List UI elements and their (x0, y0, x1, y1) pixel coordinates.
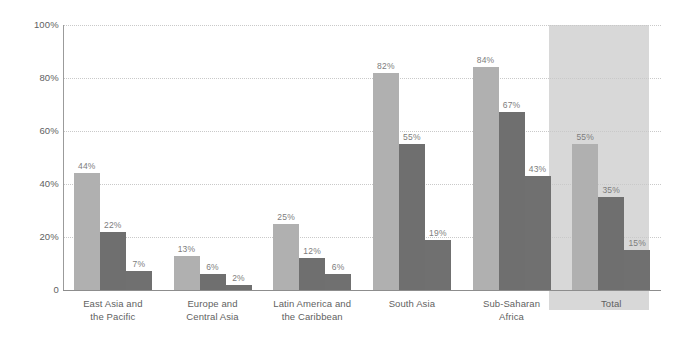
y-axis-tick-labels: 100%80%60%40%20%0 (0, 0, 59, 345)
category-label-line: Latin America and (262, 297, 362, 310)
category-label-line: East Asia and (63, 297, 163, 310)
bar[interactable] (126, 271, 152, 290)
bar[interactable] (399, 144, 425, 290)
bar-group: 55%35%15% (561, 25, 661, 290)
bar[interactable] (525, 176, 551, 290)
bar-slot: 22% (100, 25, 126, 290)
bar-value-label: 19% (425, 228, 451, 238)
bar-value-label: 55% (572, 132, 598, 142)
category-label: East Asia andthe Pacific (63, 297, 163, 323)
y-tick-label: 0 (3, 284, 59, 295)
category-label-line: Africa (462, 310, 562, 323)
bar[interactable] (499, 112, 525, 290)
category-label-line: South Asia (362, 297, 462, 310)
bar-slot: 35% (598, 25, 624, 290)
bar[interactable] (572, 144, 598, 290)
bar[interactable] (373, 73, 399, 290)
bar-slot: 6% (200, 25, 226, 290)
bar-slot: 7% (126, 25, 152, 290)
category-label: Total (561, 297, 661, 323)
bar-group-bars: 55%35%15% (561, 25, 661, 290)
bar[interactable] (174, 256, 200, 290)
bar[interactable] (273, 224, 299, 290)
bar-slot: 13% (174, 25, 200, 290)
bar-slot: 2% (226, 25, 252, 290)
category-label: South Asia (362, 297, 462, 323)
bar-group: 25%12%6% (262, 25, 362, 290)
bar-value-label: 43% (525, 164, 551, 174)
bar-group-bars: 84%67%43% (462, 25, 562, 290)
x-axis-category-labels: East Asia andthe PacificEurope andCentra… (63, 297, 661, 323)
bar-slot: 43% (525, 25, 551, 290)
bar-slot: 82% (373, 25, 399, 290)
bar-value-label: 67% (499, 100, 525, 110)
bar-value-label: 12% (299, 246, 325, 256)
bar[interactable] (624, 250, 650, 290)
bar-value-label: 13% (174, 244, 200, 254)
bar-slot: 55% (572, 25, 598, 290)
bar-value-label: 15% (624, 238, 650, 248)
x-axis-line (63, 290, 661, 291)
bar-slot: 15% (624, 25, 650, 290)
category-label-line: Central Asia (163, 310, 263, 323)
category-label: Latin America andthe Caribbean (262, 297, 362, 323)
bar-group-bars: 13%6%2% (163, 25, 263, 290)
bar[interactable] (598, 197, 624, 290)
bar-value-label: 2% (226, 273, 252, 283)
bar-value-label: 6% (200, 262, 226, 272)
bar-slot: 25% (273, 25, 299, 290)
bar-slot: 67% (499, 25, 525, 290)
bar-slot: 6% (325, 25, 351, 290)
category-label-line: Europe and (163, 297, 263, 310)
category-label-line: Total (561, 297, 661, 310)
bar-value-label: 82% (373, 61, 399, 71)
y-tick-label: 100% (3, 19, 59, 30)
bar-value-label: 22% (100, 220, 126, 230)
y-tick-label: 20% (3, 231, 59, 242)
bar-group: 44%22%7% (63, 25, 163, 290)
y-tick-label: 60% (3, 125, 59, 136)
bar-value-label: 7% (126, 259, 152, 269)
bar-group: 82%55%19% (362, 25, 462, 290)
bar-slot: 19% (425, 25, 451, 290)
y-tick-label: 80% (3, 72, 59, 83)
bar[interactable] (425, 240, 451, 290)
bar-value-label: 84% (473, 55, 499, 65)
category-label: Europe andCentral Asia (163, 297, 263, 323)
bar-value-label: 25% (273, 212, 299, 222)
bar[interactable] (100, 232, 126, 290)
bar[interactable] (200, 274, 226, 290)
bar-value-label: 44% (74, 161, 100, 171)
category-label-line: the Pacific (63, 310, 163, 323)
bar-slot: 12% (299, 25, 325, 290)
bar-groups: 44%22%7%13%6%2%25%12%6%82%55%19%84%67%43… (63, 25, 661, 290)
bar-value-label: 55% (399, 132, 425, 142)
bar[interactable] (74, 173, 100, 290)
bar-value-label: 35% (598, 185, 624, 195)
category-label: Sub-SaharanAfrica (462, 297, 562, 323)
bar[interactable] (473, 67, 499, 290)
y-tick-label: 40% (3, 178, 59, 189)
bar[interactable] (325, 274, 351, 290)
bar-chart: 100%80%60%40%20%0 44%22%7%13%6%2%25%12%6… (0, 0, 683, 345)
bar-slot: 55% (399, 25, 425, 290)
category-label-line: the Caribbean (262, 310, 362, 323)
bar-group: 13%6%2% (163, 25, 263, 290)
category-label-line: Sub-Saharan (462, 297, 562, 310)
bar-group-bars: 44%22%7% (63, 25, 163, 290)
bar[interactable] (299, 258, 325, 290)
bar-group-bars: 25%12%6% (262, 25, 362, 290)
bar-group: 84%67%43% (462, 25, 562, 290)
bar-value-label: 6% (325, 262, 351, 272)
bar-group-bars: 82%55%19% (362, 25, 462, 290)
bar-slot: 44% (74, 25, 100, 290)
bar-slot: 84% (473, 25, 499, 290)
